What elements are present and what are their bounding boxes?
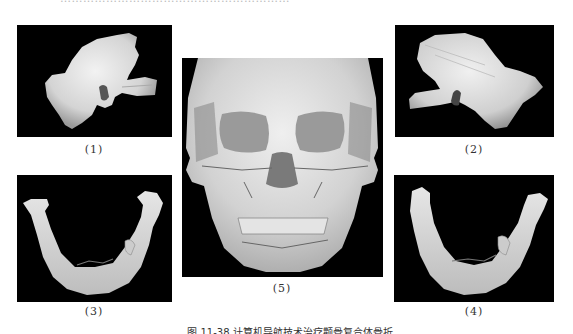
zygoma-render-image (395, 25, 554, 137)
skull-render-image (182, 58, 383, 277)
figure-panel-3 (17, 175, 172, 302)
figure-panel-5 (182, 58, 383, 277)
zygoma-render-image (17, 25, 172, 137)
figure-caption: 图 11-38 计算机导航技术治疗颧骨复合体骨折 (150, 324, 430, 334)
panel-label-4: (4) (444, 305, 504, 318)
panel-label-1: (1) (64, 143, 124, 156)
figure-panel-4 (394, 175, 554, 302)
panel-label-2: (2) (444, 143, 504, 156)
figure-panel-2 (395, 25, 554, 137)
mandible-render-image (17, 175, 172, 302)
mandible-render-image (394, 175, 554, 302)
figure-panel-1 (17, 25, 172, 137)
panel-label-5: (5) (252, 282, 312, 295)
cropped-text-line: …………………………………………………… (60, 0, 515, 6)
panel-label-3: (3) (64, 305, 124, 318)
